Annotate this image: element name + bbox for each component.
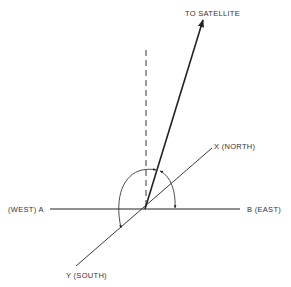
south-label: Y (SOUTH)	[66, 271, 107, 280]
west-label: (WEST) A	[8, 205, 44, 214]
satellite-label: TO SATELLITE	[185, 9, 240, 18]
azimuth-arc	[119, 169, 156, 228]
north-south-axis	[76, 148, 212, 266]
satellite-geometry-diagram: TO SATELLITE X (NORTH) (WEST) A B (EAST)…	[0, 0, 291, 287]
elevation-arc	[160, 171, 175, 208]
north-label: X (NORTH)	[214, 142, 256, 151]
east-label: B (EAST)	[247, 205, 281, 214]
